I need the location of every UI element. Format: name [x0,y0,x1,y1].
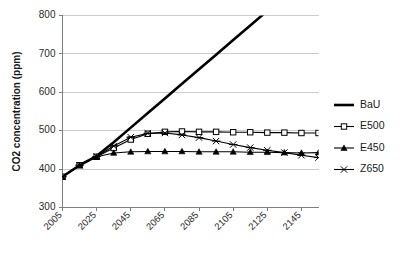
legend-label-z650: Z650 [360,162,384,174]
marker-e500-2135 [282,130,287,135]
legend-marker-e500 [341,124,346,129]
co2-concentration-line-chart: 300400500600700800 200520252045206520852… [0,0,403,256]
marker-e500-2115 [248,130,253,135]
legend-label-e450: E450 [360,141,385,153]
marker-e500-2095 [213,129,218,134]
chart-container: 300400500600700800 200520252045206520852… [0,0,403,256]
y-tick-label-400: 400 [39,163,56,174]
marker-e500-2085 [196,129,201,134]
y-axis-title: CO2 concentration (ppm) [11,51,22,171]
marker-e500-2145 [299,130,304,135]
y-tick-label-700: 700 [39,48,56,59]
legend-label-bau: BaU [360,98,380,110]
y-tick-label-800: 800 [39,9,56,20]
y-tick-label-600: 600 [39,86,56,97]
y-tick-label-500: 500 [39,124,56,135]
legend-label-e500: E500 [360,119,385,131]
marker-e500-2125 [265,130,270,135]
y-tick-label-300: 300 [39,201,56,212]
y-axis-title-text: CO2 concentration (ppm) [11,51,22,171]
marker-e500-2105 [230,130,235,135]
